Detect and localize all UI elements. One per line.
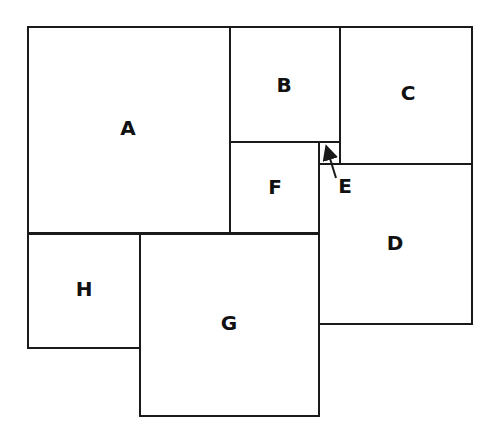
label-c: C <box>401 83 416 103</box>
label-f: F <box>268 177 282 197</box>
label-b: B <box>276 75 291 95</box>
square-e <box>318 141 341 165</box>
label-d: D <box>387 233 404 253</box>
label-g: G <box>221 313 237 333</box>
label-a: A <box>120 118 135 138</box>
label-e: E <box>338 176 352 196</box>
square-tiling-diagram: A B C E F D H G <box>0 0 499 438</box>
label-h: H <box>76 279 93 299</box>
